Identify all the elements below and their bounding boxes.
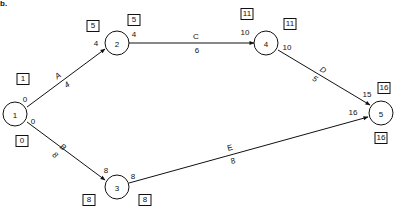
- node-1-label: 1: [13, 111, 17, 120]
- edge-c-duration: 6: [195, 46, 199, 55]
- node-4-label: 4: [264, 40, 268, 49]
- node-1-latest-box: 1: [17, 73, 30, 85]
- network-diagram: b. 1 2 3 4 5 1 0 5 5 8 8 11 11 16 16 A 4…: [0, 0, 397, 211]
- edge-e-start: 8: [131, 172, 135, 181]
- edge-e: [129, 117, 368, 183]
- node-5-label: 5: [379, 110, 383, 119]
- edge-d: [278, 50, 370, 105]
- edge-d-start: 10: [283, 43, 292, 52]
- node-5-box-bottom: 16: [375, 132, 388, 144]
- node-5-box-top: 16: [378, 82, 391, 94]
- edge-e-end: 16: [349, 108, 358, 117]
- edge-b-start: 0: [31, 117, 35, 126]
- node-2-label: 2: [115, 40, 119, 49]
- node-2-box-right: 5: [128, 14, 141, 26]
- node-4-box-right: 11: [284, 18, 297, 30]
- edge-c-activity: C: [193, 32, 199, 41]
- node-3-box-right: 8: [139, 194, 152, 206]
- edge-d-end: 15: [363, 90, 372, 99]
- node-4-box-left: 11: [241, 8, 254, 20]
- node-1-earliest-box: 0: [16, 135, 29, 147]
- edge-c-end: 10: [241, 28, 250, 37]
- edge-b-end: 8: [104, 166, 108, 175]
- edge-a-end: 4: [94, 39, 98, 48]
- edge-b: [27, 122, 105, 180]
- node-3-box-left: 8: [83, 194, 96, 206]
- node-3-label: 3: [115, 184, 119, 193]
- edge-c-start: 4: [132, 30, 136, 39]
- edge-a: [27, 49, 105, 107]
- figure-label: b.: [0, 0, 7, 7]
- edge-a-start: 0: [23, 95, 27, 104]
- node-2-box-left: 5: [87, 20, 100, 32]
